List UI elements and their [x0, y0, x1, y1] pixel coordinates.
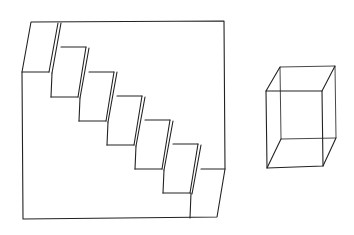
- wireframe-prism: [266, 66, 336, 168]
- figure-canvas: [0, 0, 354, 235]
- stair-steps: [49, 23, 225, 218]
- staircase-block: [22, 21, 225, 219]
